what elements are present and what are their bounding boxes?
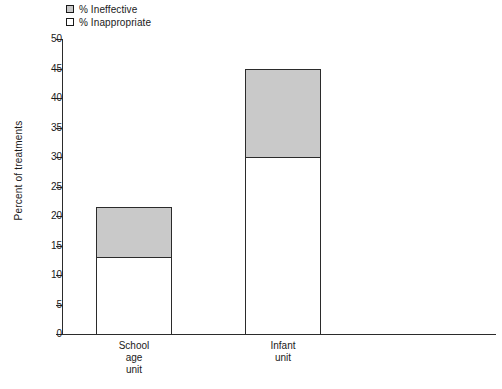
y-axis-tick-label-wrap: 20 [22, 216, 62, 217]
y-axis-tick-label: 45 [36, 64, 62, 74]
bar-segment-inappropriate [245, 157, 321, 335]
y-axis-tick-label-wrap: 30 [22, 157, 62, 158]
y-axis-tick-label: 5 [36, 300, 62, 310]
y-axis-title-text: Percent of treatments [14, 121, 25, 221]
y-axis-tick-label: 30 [36, 152, 62, 162]
chart-figure: % Ineffective % Inappropriate Percent of… [0, 0, 502, 389]
y-axis-tick-label-wrap: 50 [22, 39, 62, 40]
y-axis-tick-label: 40 [36, 93, 62, 103]
bar-segment-ineffective [245, 69, 321, 159]
legend-label-ineffective: % Ineffective [79, 4, 137, 15]
y-axis-tick-label: 20 [36, 211, 62, 221]
y-axis-tick-label: 10 [36, 270, 62, 280]
y-axis-tick-label-wrap: 10 [22, 275, 62, 276]
bar-stack [245, 39, 321, 334]
legend-item-inappropriate: % Inappropriate [66, 16, 151, 28]
y-axis-tick-label-wrap: 0 [22, 334, 62, 335]
y-axis-tick-label-wrap: 35 [22, 128, 62, 129]
legend-label-inappropriate: % Inappropriate [79, 17, 151, 28]
legend-swatch-inappropriate-icon [66, 18, 74, 26]
y-axis-tick-label: 35 [36, 123, 62, 133]
y-axis-tick-label-wrap: 40 [22, 98, 62, 99]
bar-segment-ineffective [96, 207, 172, 258]
legend-item-ineffective: % Ineffective [66, 3, 151, 15]
y-axis-tick-label: 25 [36, 182, 62, 192]
y-axis-line [62, 39, 63, 335]
y-axis-tick-label-wrap: 45 [22, 69, 62, 70]
y-axis-tick-label-wrap: 15 [22, 246, 62, 247]
x-axis-category-label: Infant unit [220, 340, 346, 364]
y-axis-tick-label: 50 [36, 34, 62, 44]
y-axis-tick-label: 15 [36, 241, 62, 251]
legend-swatch-ineffective-icon [66, 5, 74, 13]
x-axis-category-label: School age unit [71, 340, 197, 376]
bar-stack [96, 39, 172, 334]
bar-segment-inappropriate [96, 257, 172, 335]
chart-legend: % Ineffective % Inappropriate [66, 3, 151, 28]
y-axis-tick-label-wrap: 25 [22, 187, 62, 188]
y-axis-title: Percent of treatments [10, 0, 28, 389]
y-axis-tick-label: 0 [36, 329, 62, 339]
y-axis-tick-label-wrap: 5 [22, 305, 62, 306]
